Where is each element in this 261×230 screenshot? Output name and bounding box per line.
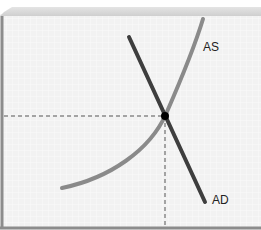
ad-label: AD: [212, 193, 229, 207]
equilibrium-point: [161, 112, 169, 120]
top-band: [0, 7, 261, 16]
as-label: AS: [203, 40, 219, 54]
as-ad-diagram: AS AD: [0, 0, 261, 230]
